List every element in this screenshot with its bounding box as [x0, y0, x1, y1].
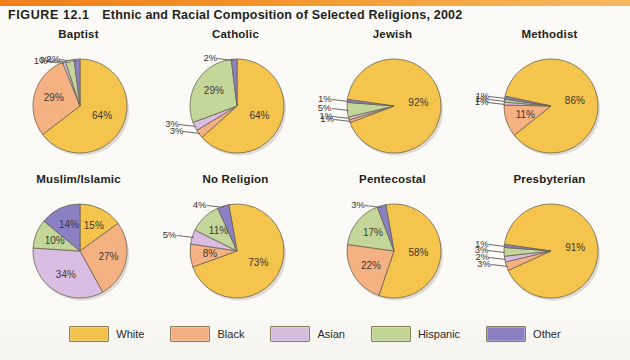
pie-slice-label-hispanic: 29% — [201, 85, 227, 96]
pie-body: 58%22%17%3% — [314, 189, 471, 317]
pie-svg — [157, 189, 314, 317]
legend-swatch-other — [486, 326, 526, 342]
pie-chart-catholic: Catholic64%3%3%29%2% — [157, 28, 314, 173]
pie-chart-title: Pentecostal — [314, 173, 471, 185]
legend-item-white: White — [69, 326, 144, 342]
pie-chart-title: Baptist — [0, 28, 157, 40]
legend-swatch-black — [170, 326, 210, 342]
legend-label: White — [116, 328, 144, 340]
pie-svg — [0, 44, 157, 172]
pie-body: 91%3%2%3%1% — [471, 189, 628, 317]
legend-label: Other — [533, 328, 561, 340]
pie-body: 73%8%5%11%4% — [157, 189, 314, 317]
pie-svg — [471, 44, 628, 172]
pie-chart-methodist: Methodist86%11%1%1%1% — [471, 28, 628, 173]
decorative-top-band — [0, 0, 630, 6]
chart-legend: WhiteBlackAsianHispanicOther — [0, 322, 630, 346]
pie-body: 92%1%1%5%1% — [314, 44, 471, 172]
pie-body: 64%3%3%29%2% — [157, 44, 314, 172]
pie-slice-label-black: 8% — [197, 248, 223, 259]
pie-body: 15%27%34%10%14% — [0, 189, 157, 317]
pie-chart-jewish: Jewish92%1%1%5%1% — [314, 28, 471, 173]
pie-svg — [314, 189, 471, 317]
pie-slice-label-asian: 5% — [155, 229, 177, 240]
pie-slice-label-other: 1% — [467, 90, 489, 101]
pie-slice-label-other: 4% — [185, 199, 207, 210]
pie-slice-label-asian: 3% — [157, 118, 179, 129]
legend-item-black: Black — [170, 326, 244, 342]
figure-title: Ethnic and Racial Composition of Selecte… — [102, 8, 462, 22]
pie-chart-title: Catholic — [157, 28, 314, 40]
pie-slice-label-asian: 34% — [53, 269, 79, 280]
pie-chart-title: Jewish — [314, 28, 471, 40]
pie-chart-title: No Religion — [157, 173, 314, 185]
pie-slice-label-black: 22% — [358, 260, 384, 271]
pie-slice-label-white: 86% — [562, 95, 588, 106]
legend-item-asian: Asian — [270, 326, 345, 342]
pie-chart-pentecostal: Pentecostal58%22%17%3% — [314, 173, 471, 318]
legend-label: Hispanic — [418, 328, 460, 340]
legend-swatch-asian — [270, 326, 310, 342]
pie-body: 86%11%1%1%1% — [471, 44, 628, 172]
pie-slice-label-other: 2% — [38, 53, 60, 64]
pie-slice-label-white: 91% — [562, 242, 588, 253]
pie-slice-label-white: 64% — [246, 110, 272, 121]
pie-slice-label-other: 1% — [467, 238, 489, 249]
pie-slice-label-hispanic: 10% — [42, 235, 68, 246]
pie-slice-label-other: 2% — [195, 52, 217, 63]
legend-swatch-hispanic — [371, 326, 411, 342]
pie-chart-presbyterian: Presbyterian91%3%2%3%1% — [471, 173, 628, 318]
pie-slice-label-white: 64% — [89, 110, 115, 121]
pie-slice-label-white: 73% — [245, 257, 271, 268]
legend-item-hispanic: Hispanic — [371, 326, 460, 342]
bottom-text-fragment — [6, 350, 226, 360]
pie-slice-label-other: 14% — [56, 219, 82, 230]
pie-slice-label-hispanic: 11% — [205, 225, 231, 236]
figure-header: FIGURE 12.1 Ethnic and Racial Compositio… — [8, 8, 622, 26]
pie-svg — [157, 44, 314, 172]
legend-label: Asian — [317, 328, 345, 340]
pie-chart-baptist: Baptist64%29%1%3%2% — [0, 28, 157, 173]
pie-chart-muslim-islamic: Muslim/Islamic15%27%34%10%14% — [0, 173, 157, 318]
pie-body: 64%29%1%3%2% — [0, 44, 157, 172]
legend-item-other: Other — [486, 326, 561, 342]
pie-chart-title: Presbyterian — [471, 173, 628, 185]
pie-chart-grid: Baptist64%29%1%3%2%Catholic64%3%3%29%2%J… — [0, 28, 630, 318]
pie-slice-label-white: 92% — [405, 97, 431, 108]
pie-slice-label-black: 29% — [41, 92, 67, 103]
pie-chart-no-religion: No Religion73%8%5%11%4% — [157, 173, 314, 318]
pie-slice-label-other: 1% — [310, 93, 332, 104]
pie-svg — [471, 189, 628, 317]
pie-chart-title: Muslim/Islamic — [0, 173, 157, 185]
pie-slice-label-white: 15% — [81, 220, 107, 231]
figure-number: FIGURE 12.1 — [8, 8, 90, 22]
pie-chart-title: Methodist — [471, 28, 628, 40]
legend-label: Black — [217, 328, 244, 340]
pie-slice-label-black: 27% — [96, 251, 122, 262]
legend-swatch-white — [69, 326, 109, 342]
pie-slice-label-white: 58% — [405, 247, 431, 258]
pie-slice-label-other: 3% — [343, 199, 365, 210]
pie-slice-label-hispanic: 17% — [360, 227, 386, 238]
pie-slice-label-black: 11% — [512, 109, 538, 120]
pie-svg — [0, 189, 157, 317]
